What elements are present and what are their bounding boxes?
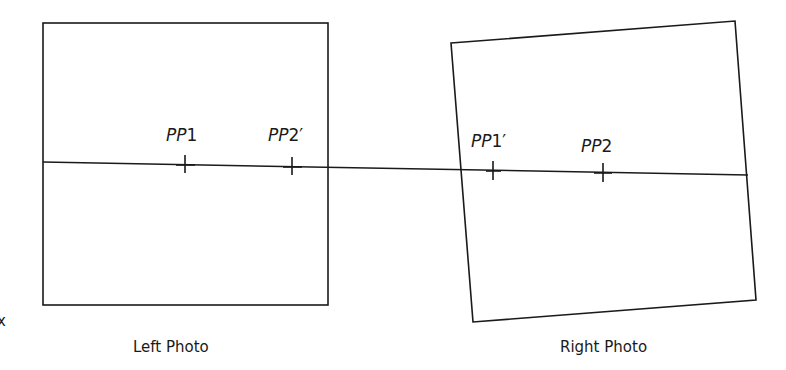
- pp2-label: PP2: [581, 136, 612, 156]
- pp1-prefix: PP: [166, 125, 187, 145]
- pp1-suffix: 1: [187, 125, 198, 145]
- flight-line: [43, 162, 748, 175]
- pp1-prime-label: PP1′: [471, 131, 506, 151]
- pp2-prime-prefix: PP: [268, 125, 289, 145]
- axis-label-x: x: [0, 312, 6, 330]
- pp1-label: PP1: [166, 125, 197, 145]
- pp1-prime-marker: [486, 161, 501, 180]
- pp2-prime-label: PP2′: [268, 125, 303, 145]
- pp2-marker: [594, 163, 612, 182]
- pp1-prime-suffix: 1′: [492, 131, 507, 151]
- pp1-prime-prefix: PP: [471, 131, 492, 151]
- pp2-prime-suffix: 2′: [289, 125, 304, 145]
- left-photo-caption: Left Photo: [133, 338, 209, 356]
- right-photo-caption: Right Photo: [560, 338, 647, 356]
- pp2-suffix: 2: [602, 136, 613, 156]
- diagram-canvas: [0, 0, 786, 370]
- pp2-prefix: PP: [581, 136, 602, 156]
